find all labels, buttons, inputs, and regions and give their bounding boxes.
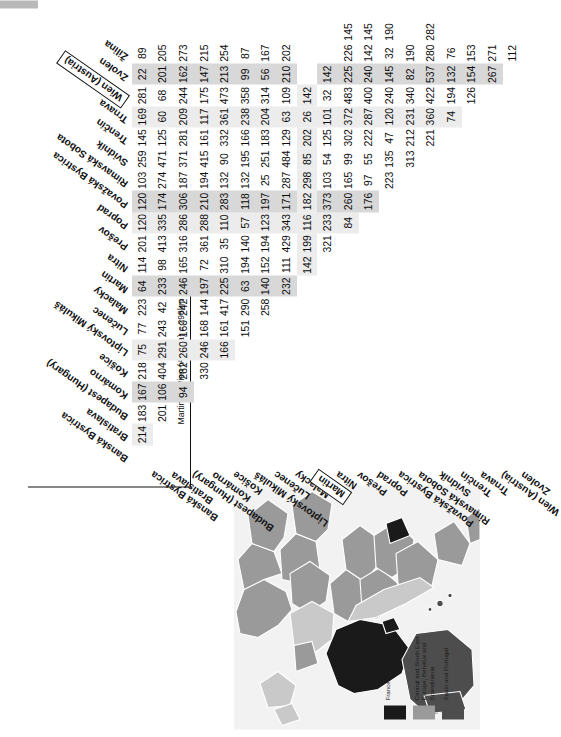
matrix-cell-empty xyxy=(441,148,462,169)
matrix-cell: 422 xyxy=(420,84,441,105)
matrix-cell-empty xyxy=(441,445,462,466)
matrix-cell: 75 xyxy=(132,339,153,360)
matrix-cell-empty xyxy=(317,423,338,444)
matrix-cell-empty xyxy=(441,381,462,402)
matrix-cell: 233 xyxy=(153,275,174,296)
matrix-cell: 400 xyxy=(359,84,380,105)
matrix-cell-empty xyxy=(338,339,359,360)
matrix-cell-empty xyxy=(338,381,359,402)
matrix-row-header-wien-austria: Wien (Austria) xyxy=(482,466,503,487)
matrix-cell-empty xyxy=(441,296,462,317)
matrix-cell-empty xyxy=(482,84,503,105)
matrix-cell-empty xyxy=(317,402,338,423)
matrix-cell: 54 xyxy=(317,148,338,169)
matrix-row-header-malacky: Malacky xyxy=(276,466,297,487)
matrix-cell: 183 xyxy=(132,402,153,423)
matrix-cell-empty xyxy=(317,360,338,381)
matrix-cell: 283 xyxy=(214,190,235,211)
matrix-cell: 22 xyxy=(132,63,153,84)
matrix-cell: 153 xyxy=(462,42,483,63)
table-row: Budapest (Hungary)9428226016024224616531… xyxy=(173,21,194,487)
matrix-cell: 197 xyxy=(194,275,215,296)
matrix-cell: 271 xyxy=(482,42,503,63)
matrix-cell-empty xyxy=(153,423,174,444)
matrix-cell-empty xyxy=(317,275,338,296)
matrix-cell: 32 xyxy=(317,84,338,105)
matrix-cell: 404 xyxy=(153,360,174,381)
matrix-cell: 260 xyxy=(173,339,194,360)
matrix-cell: 99 xyxy=(235,63,256,84)
matrix-cell-empty xyxy=(317,445,338,466)
matrix-cell: 182 xyxy=(297,190,318,211)
matrix-cell: 125 xyxy=(317,127,338,148)
matrix-cell: 118 xyxy=(235,190,256,211)
matrix-col-header-svidn-k: Svidník xyxy=(0,148,132,169)
matrix-row-header-nitra: Nitra xyxy=(317,466,338,487)
matrix-cell-empty xyxy=(338,233,359,254)
matrix-cell-empty xyxy=(420,233,441,254)
matrix-cell: 114 xyxy=(132,254,153,275)
matrix-cell-empty xyxy=(503,106,524,127)
matrix-cell: 306 xyxy=(173,190,194,211)
edge-marker xyxy=(0,0,38,8)
matrix-cell-empty xyxy=(297,318,318,339)
matrix-cell-empty xyxy=(482,106,503,127)
table-row: Svidník221360422537280282 xyxy=(420,21,441,487)
matrix-cell: 199 xyxy=(297,233,318,254)
matrix-row-header-budapest-hungary: Budapest (Hungary) xyxy=(173,466,194,487)
matrix-col-header-pova-sk-bystrica: Považská Bystrica xyxy=(0,190,132,211)
matrix-cell-empty xyxy=(359,445,380,466)
matrix-cell: 238 xyxy=(235,106,256,127)
matrix-cell: 57 xyxy=(235,212,256,233)
matrix-cell-empty xyxy=(276,360,297,381)
matrix-cell: 280 xyxy=(420,42,441,63)
matrix-cell: 330 xyxy=(194,360,215,381)
matrix-cell-empty xyxy=(379,445,400,466)
table-row: Martin1421991161822988520226142 xyxy=(297,21,318,487)
matrix-cell: 429 xyxy=(276,233,297,254)
matrix-cell-empty xyxy=(214,423,235,444)
matrix-cell: 194 xyxy=(235,254,256,275)
matrix-cell-empty xyxy=(276,296,297,317)
matrix-cell: 281 xyxy=(132,84,153,105)
matrix-col-header-liptovsk-mikul: Liptovský Mikuláš xyxy=(0,339,132,360)
matrix-cell: 290 xyxy=(235,296,256,317)
matrix-cell-empty xyxy=(420,381,441,402)
matrix-cell: 314 xyxy=(256,84,277,105)
table-row: Lučenec258140152194123197252511832043145… xyxy=(256,21,277,487)
matrix-cell: 142 xyxy=(317,63,338,84)
matrix-cell: 287 xyxy=(359,106,380,127)
matrix-row-header-svidn-k: Svidník xyxy=(420,466,441,487)
matrix-cell: 316 xyxy=(173,233,194,254)
matrix-cell: 483 xyxy=(338,84,359,105)
matrix-cell: 132 xyxy=(214,169,235,190)
matrix-cell: 166 xyxy=(235,127,256,148)
matrix-cell: 371 xyxy=(173,148,194,169)
matrix-cell-empty xyxy=(256,423,277,444)
matrix-cell: 120 xyxy=(132,212,153,233)
matrix-cell-empty xyxy=(420,275,441,296)
table-row: Poprad1769755222287400240142145 xyxy=(359,21,380,487)
matrix-cell-empty xyxy=(482,339,503,360)
matrix-cell-empty xyxy=(462,445,483,466)
matrix-cell-empty xyxy=(462,254,483,275)
matrix-cell-empty xyxy=(317,381,338,402)
matrix-cell-empty xyxy=(503,275,524,296)
matrix-col-header-lu-enec: Lučenec xyxy=(0,318,132,339)
matrix-cell: 240 xyxy=(359,63,380,84)
matrix-cell: 64 xyxy=(132,275,153,296)
matrix-cell: 246 xyxy=(173,275,194,296)
matrix-cell: 243 xyxy=(153,318,174,339)
matrix-cell: 287 xyxy=(276,169,297,190)
matrix-cell: 286 xyxy=(173,212,194,233)
matrix-cell-empty xyxy=(297,402,318,423)
matrix-cell-empty xyxy=(276,381,297,402)
matrix-cell-empty xyxy=(462,339,483,360)
matrix-cell-empty xyxy=(317,318,338,339)
matrix-cell-empty xyxy=(482,169,503,190)
matrix-cell-empty xyxy=(235,402,256,423)
matrix-cell-empty xyxy=(441,233,462,254)
matrix-cell-empty xyxy=(379,233,400,254)
matrix-cell-empty xyxy=(338,296,359,317)
